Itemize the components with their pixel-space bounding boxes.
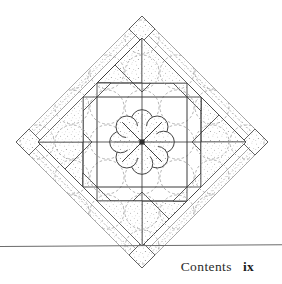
running-footer: Contentsix (0, 257, 282, 277)
quilt-block-figure (0, 0, 282, 284)
book-page: Contentsix (0, 0, 282, 284)
page-folio: ix (243, 259, 254, 274)
center-rosette (110, 110, 175, 175)
running-head-label: Contents (181, 259, 232, 274)
